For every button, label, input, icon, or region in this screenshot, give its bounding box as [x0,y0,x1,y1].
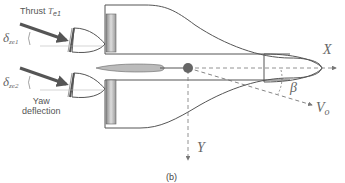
lower-fin [106,80,116,124]
delta-ze1-label: δze1 [3,30,18,46]
angle-arc-upper [29,32,31,45]
upper-nozzle [68,28,105,53]
thrust-arrow-upper [20,24,66,40]
x-axis-label: X [323,42,332,58]
angle-arc-lower [29,76,31,89]
central-body [96,64,164,72]
delta-ze2-label: δze2 [3,74,18,90]
beta-label: β [290,80,297,96]
velocity-label: Vo [316,100,330,117]
y-axis-label: Y [197,140,205,156]
yaw-deflection-label: Yaw deflection [22,96,61,116]
center-of-gravity [183,63,193,73]
thrust-label: Thrust Te1 [20,6,61,17]
thrust-arrow-lower [20,68,66,84]
figure-caption: (b) [166,172,177,182]
upper-wing [105,5,322,68]
upper-fin [106,14,116,52]
lower-nozzle [68,73,105,98]
